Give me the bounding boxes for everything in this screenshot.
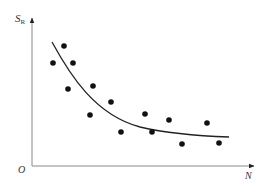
data-point [61, 43, 67, 49]
data-point [50, 60, 56, 66]
data-point [166, 117, 172, 123]
data-point [118, 129, 124, 135]
trend-curve [52, 42, 229, 137]
data-point [70, 60, 76, 66]
data-point [204, 120, 210, 126]
data-points [50, 43, 222, 147]
origin-label: O [18, 164, 25, 175]
x-axis-label: N [245, 170, 252, 181]
y-axis-label: SR [15, 12, 25, 26]
data-point [108, 99, 114, 105]
scatter-chart [0, 0, 274, 192]
data-point [179, 141, 185, 147]
data-point [142, 111, 148, 117]
data-point [149, 129, 155, 135]
data-point [216, 140, 222, 146]
data-point [90, 83, 96, 89]
data-point [65, 86, 71, 92]
data-point [87, 112, 93, 118]
